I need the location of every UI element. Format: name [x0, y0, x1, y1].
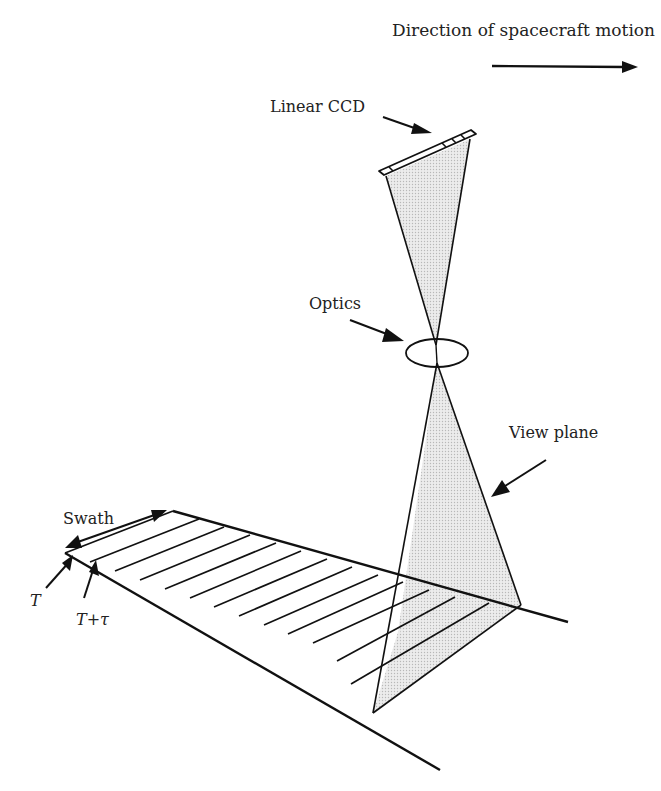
t-pointer-arrow: [46, 555, 73, 588]
swath-far-edge: [173, 511, 568, 622]
swath-near-edge: [65, 553, 440, 770]
t-tau-label: T+τ: [76, 612, 109, 628]
direction-arrow: [492, 61, 638, 73]
optics-pointer-arrow: [350, 320, 404, 342]
direction-label: Direction of spacecraft motion: [392, 22, 655, 39]
t-label: T: [30, 593, 41, 609]
diagram-graphics: [0, 0, 661, 791]
view-plane-label: View plane: [509, 425, 598, 441]
swath-label: Swath: [63, 511, 114, 527]
optics-label: Optics: [309, 296, 361, 312]
pushbroom-diagram: Direction of spacecraft motion Linear CC…: [0, 0, 661, 791]
ccd-pointer-arrow: [383, 117, 432, 134]
ccd-label: Linear CCD: [270, 99, 365, 115]
upper-view-cone: [386, 139, 470, 345]
view-plane-pointer-arrow: [491, 460, 546, 497]
